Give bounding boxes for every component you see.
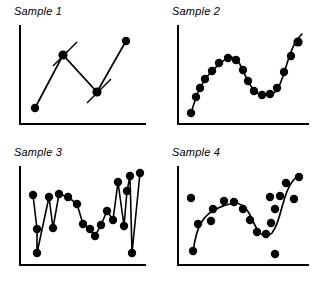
chart-sample-4 bbox=[158, 141, 316, 282]
chart-sample-2 bbox=[158, 0, 316, 141]
data-line-sample-1 bbox=[35, 41, 126, 108]
axes-sample-2 bbox=[178, 26, 308, 124]
panel-sample-4: Sample 4 bbox=[158, 141, 316, 282]
four-panel-figure: Sample 1 Sample 2 bbox=[0, 0, 317, 282]
chart-sample-1 bbox=[0, 0, 158, 141]
data-points-sample-2 bbox=[187, 37, 303, 117]
data-points-sample-4 bbox=[187, 173, 303, 258]
data-line-sample-3 bbox=[33, 173, 140, 253]
chart-sample-3 bbox=[0, 141, 158, 282]
panel-sample-1: Sample 1 bbox=[0, 0, 158, 141]
panel-sample-3: Sample 3 bbox=[0, 141, 158, 282]
panel-sample-2: Sample 2 bbox=[158, 0, 316, 141]
